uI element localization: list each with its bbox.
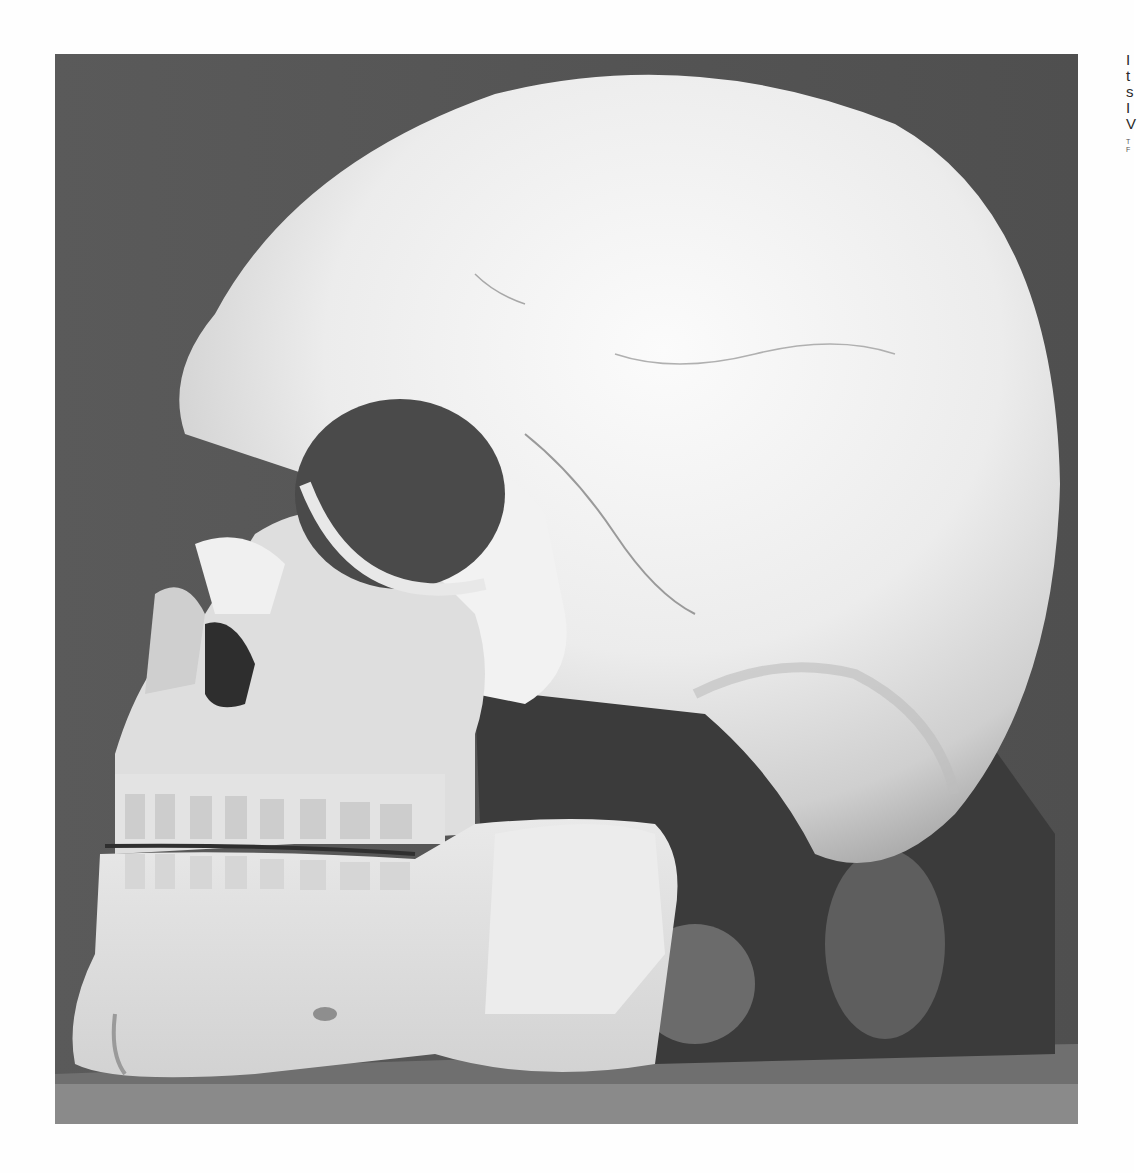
caption-line: I <box>1126 100 1141 116</box>
caption-column: I t s I V T F <box>1126 52 1141 154</box>
caption-credit-line: F <box>1126 146 1141 154</box>
skull-illustration <box>55 54 1078 1124</box>
caption-line: s <box>1126 84 1141 100</box>
caption-line: I <box>1126 52 1141 68</box>
caption-credit-line: T <box>1126 138 1141 146</box>
caption-line: t <box>1126 68 1141 84</box>
skull-photograph <box>55 54 1078 1124</box>
caption-line: V <box>1126 116 1141 132</box>
